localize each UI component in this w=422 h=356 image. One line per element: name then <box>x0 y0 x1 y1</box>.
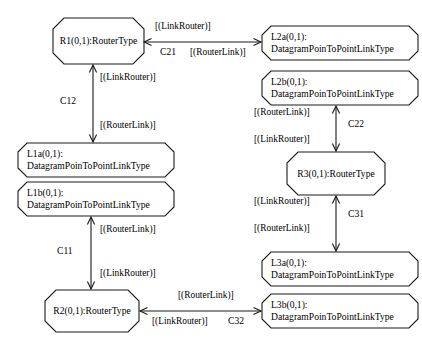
link-node-l2b-shape <box>262 71 418 105</box>
link-node-l1a-shape <box>18 143 174 177</box>
link-node-l3b-shape <box>262 294 418 328</box>
link-node-l3a-shape <box>262 252 418 286</box>
router-node-r2-shape <box>45 290 139 332</box>
router-node-r1-shape <box>53 18 144 64</box>
link-node-l1b-shape <box>18 182 174 216</box>
uml-object-diagram: R1(0,1):RouterTypeL2a(0,1):DatagramPoinT… <box>0 0 422 356</box>
router-node-r3-shape <box>287 152 385 195</box>
link-node-l2a-shape <box>262 26 418 60</box>
diagram-canvas <box>0 0 422 356</box>
